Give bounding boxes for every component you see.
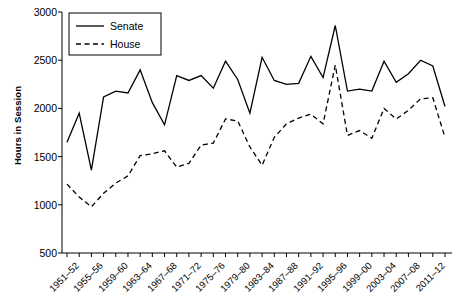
x-axis-tick-labels: 1951–521955–561959–601963–641967–681971–… (0, 0, 471, 307)
chart-container: Hours in Session 50010001500200025003000… (0, 0, 471, 307)
